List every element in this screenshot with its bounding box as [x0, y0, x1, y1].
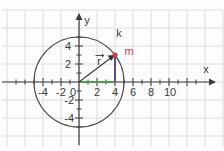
- x-tick-label-2: 2: [94, 86, 100, 98]
- y-tick-label-2: 2: [65, 58, 71, 70]
- point-label-m: m: [124, 45, 133, 57]
- y-tick-label-4: 4: [65, 40, 71, 52]
- point-m-marker: [112, 52, 117, 57]
- coordinate-plane-figure: -4 -2 0 2 4 6 8 10 4 2 -2 -4 x y k m r: [0, 0, 224, 151]
- x-tick-label-4: 4: [112, 86, 118, 98]
- y-tick-label-minus2: -2: [64, 94, 74, 106]
- circle-label-k: k: [116, 27, 122, 39]
- x-tick-label-6: 6: [130, 86, 136, 98]
- y-tick-label-minus4: -4: [64, 112, 74, 124]
- graph-canvas: -4 -2 0 2 4 6 8 10 4 2 -2 -4 x y k m r: [0, 0, 224, 151]
- vector-label-r: r: [97, 55, 101, 67]
- x-axis-label: x: [203, 63, 209, 75]
- x-tick-label-10: 10: [164, 86, 176, 98]
- figure-background: [0, 0, 224, 151]
- y-axis-label: y: [84, 14, 90, 26]
- x-tick-label-minus4: -4: [38, 86, 48, 98]
- x-tick-label-8: 8: [148, 86, 154, 98]
